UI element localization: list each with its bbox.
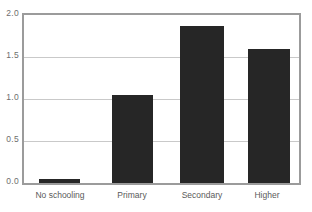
y-axis-tick-label-1-5: 1.5 bbox=[0, 51, 19, 60]
bar-chart-figure: 2.0 1.5 1.0 0.5 0.0 No schooling Primary… bbox=[0, 0, 312, 212]
y-axis-tick-label-0-0: 0.0 bbox=[0, 177, 19, 186]
top-clipped-text bbox=[40, 0, 190, 3]
plot-inner bbox=[24, 15, 299, 183]
plot-area bbox=[22, 13, 301, 185]
y-axis-tick-label-2-0: 2.0 bbox=[0, 9, 19, 18]
bar-secondary[interactable] bbox=[180, 26, 224, 183]
x-axis-label-higher: Higher bbox=[222, 190, 312, 200]
bar-primary[interactable] bbox=[112, 95, 153, 183]
bar-higher[interactable] bbox=[248, 49, 290, 183]
y-axis-tick-label-1-0: 1.0 bbox=[0, 93, 19, 102]
bars-layer bbox=[24, 15, 299, 183]
bar-no-schooling[interactable] bbox=[39, 179, 80, 183]
y-axis-tick-label-0-5: 0.5 bbox=[0, 135, 19, 144]
